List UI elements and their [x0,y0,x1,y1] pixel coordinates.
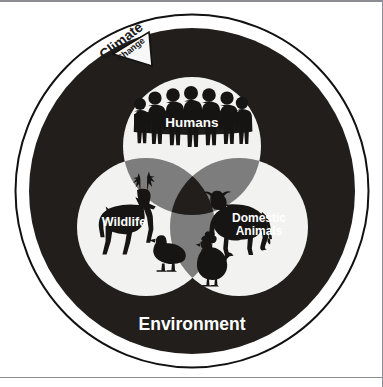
domestic-animals-label-line1: Domestic [232,211,286,225]
venn-diagram-svg: Humans Wildlife Domestic Animals Environ… [0,0,383,387]
humans-label: Humans [165,115,218,130]
domestic-animals-label-line2: Animals [236,224,283,238]
wildlife-label: Wildlife [102,215,146,229]
one-health-diagram: Humans Wildlife Domestic Animals Environ… [0,0,383,387]
environment-label: Environment [139,314,246,334]
domestic-animals-label: Domestic Animals [232,211,286,238]
